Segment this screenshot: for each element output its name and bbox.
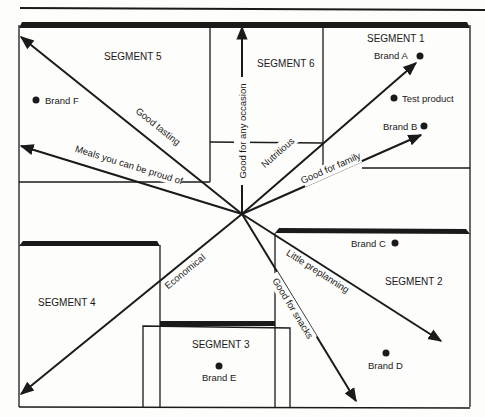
segment-4-label: SEGMENT 4 <box>38 297 96 308</box>
vector-label-good-for-snacks: Good for snacks <box>270 276 316 341</box>
segment-5-label: SEGMENT 5 <box>104 51 162 62</box>
brand-b-dot <box>421 123 428 130</box>
brand-e-dot <box>216 363 223 370</box>
vector-label-nutritious: Nutritious <box>259 135 297 170</box>
vector-label-good-tasting: Good tasting <box>134 105 183 147</box>
segment-1-label: SEGMENT 1 <box>367 33 425 44</box>
vector-label-any-occasion: Good for any occasion <box>237 83 248 178</box>
frame-bottom <box>19 407 470 408</box>
segment-2-label: SEGMENT 2 <box>385 276 443 287</box>
brand-e-label: Brand E <box>202 372 236 383</box>
top-thick-bar <box>19 22 470 28</box>
vector-label-economical: Economical <box>162 252 207 292</box>
vector-nutritious <box>242 63 416 214</box>
brand-c-dot <box>392 240 399 247</box>
brand-f-dot <box>33 97 40 104</box>
segment-3-label: SEGMENT 3 <box>192 339 250 350</box>
vector-good-tasting <box>21 37 242 214</box>
segment-2-thick-bar <box>275 228 470 234</box>
brand-f-label: Brand F <box>45 95 79 106</box>
segment-6-label: SEGMENT 6 <box>257 58 315 69</box>
segment-3-thick-bar <box>160 321 275 326</box>
brand-a-dot <box>417 53 424 60</box>
brand-b-label: Brand B <box>383 121 417 132</box>
perceptual-map: Good tasting Meals you can be proud of G… <box>0 0 485 417</box>
test-product-dot <box>391 95 398 102</box>
vector-label-little-preplanning: Little preplanning <box>284 247 351 295</box>
top-rule <box>20 8 485 10</box>
vector-meals-proud <box>21 146 242 214</box>
segment-6-bottom <box>210 142 323 143</box>
segment-4-thick-bar <box>19 241 160 246</box>
brand-d-dot <box>383 350 390 357</box>
brand-d-label: Brand D <box>368 360 403 371</box>
test-product-label: Test product <box>402 93 454 104</box>
brand-c-label: Brand C <box>351 238 386 249</box>
brand-a-label: Brand A <box>374 50 408 61</box>
